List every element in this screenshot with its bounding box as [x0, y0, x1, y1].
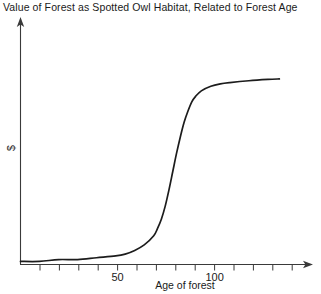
figure-container: Value of Forest as Spotted Owl Habitat, …: [0, 0, 321, 294]
x-axis-label: Age of forest: [155, 279, 215, 291]
y-axis-label: $: [5, 141, 17, 155]
x-tick-label-50: 50: [111, 271, 123, 283]
x-axis-ticks: [40, 265, 292, 271]
chart-plot-area: [0, 0, 321, 294]
data-curve-habitat-value: [21, 79, 280, 262]
